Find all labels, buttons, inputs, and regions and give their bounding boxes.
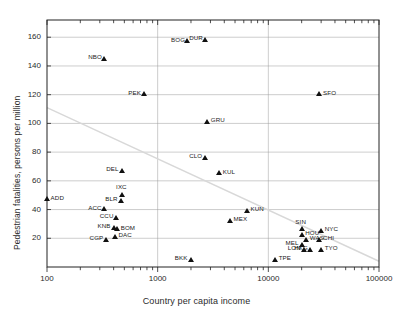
x-axis-title: Country per capita income <box>0 296 393 306</box>
data-point-marker <box>118 198 124 203</box>
data-point-marker <box>244 208 250 213</box>
data-point-label: CCU <box>100 212 114 219</box>
y-tick-label: 80 <box>17 147 41 156</box>
data-point-label: DAC <box>118 231 131 238</box>
data-point-label: BOG <box>171 36 185 43</box>
y-tick-label: 40 <box>17 205 41 214</box>
data-point-label: BOM <box>121 224 135 231</box>
data-point-marker <box>101 56 107 61</box>
data-point-marker <box>318 228 324 233</box>
x-tick-label: 1000 <box>128 274 188 283</box>
y-tick-label: 160 <box>17 32 41 41</box>
data-point-marker <box>318 247 324 252</box>
data-point-marker <box>113 215 119 220</box>
x-tick-label: 100000 <box>349 274 393 283</box>
data-point-marker <box>188 257 194 262</box>
data-point-marker <box>103 237 109 242</box>
data-point-label: NBO <box>88 53 102 60</box>
data-point-marker <box>307 247 313 252</box>
data-point-marker <box>112 234 118 239</box>
data-point-label: ADD <box>51 194 64 201</box>
data-point-marker <box>216 170 222 175</box>
data-point-label: KUN <box>250 205 263 212</box>
x-tick-label: 100 <box>17 274 77 283</box>
data-point-marker <box>119 168 125 173</box>
data-point-marker <box>316 237 322 242</box>
data-point-label: CGP <box>90 234 104 241</box>
y-tick-label: 140 <box>17 61 41 70</box>
data-point-marker <box>303 237 309 242</box>
data-point-label: BLR <box>105 195 117 202</box>
data-point-label: DEL <box>106 165 118 172</box>
data-point-label: IXC <box>116 183 127 190</box>
y-tick-label: 100 <box>17 118 41 127</box>
data-point-marker <box>204 119 210 124</box>
data-point-marker <box>299 226 305 231</box>
data-point-label: KUL <box>223 168 235 175</box>
data-point-marker <box>141 91 147 96</box>
data-point-marker <box>272 257 278 262</box>
data-point-label: SIN <box>295 218 306 225</box>
data-point-label: HKG <box>294 244 308 251</box>
data-point-label: NYC <box>325 225 338 232</box>
data-point-label: ACC <box>88 204 101 211</box>
data-point-label: BKK <box>175 254 188 261</box>
scatter-chart: Country per capita income Pedestrian fat… <box>0 0 393 310</box>
data-point-label: MEX <box>234 215 248 222</box>
y-tick-label: 20 <box>17 233 41 242</box>
data-point-label: KNB <box>97 222 110 229</box>
data-point-label: CLO <box>189 152 202 159</box>
data-point-label: CHI <box>323 234 334 241</box>
data-point-marker <box>202 155 208 160</box>
data-point-label: TYO <box>325 244 338 251</box>
y-tick-label: 60 <box>17 176 41 185</box>
data-point-marker <box>44 196 50 201</box>
data-point-marker <box>101 206 107 211</box>
data-point-marker <box>119 192 125 197</box>
data-point-marker <box>316 91 322 96</box>
x-tick-label: 10000 <box>238 274 298 283</box>
data-point-label: DUR <box>189 34 203 41</box>
data-point-label: PEK <box>128 89 141 96</box>
data-point-marker <box>227 218 233 223</box>
data-point-label: GRU <box>211 116 225 123</box>
data-point-marker <box>202 37 208 42</box>
data-point-label: TPE <box>279 254 291 261</box>
y-tick-label: 120 <box>17 90 41 99</box>
data-point-label: SFO <box>323 89 336 96</box>
